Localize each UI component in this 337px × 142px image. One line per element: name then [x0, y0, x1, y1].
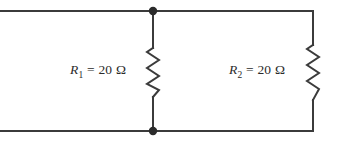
resistor-2-value: 20	[257, 62, 271, 77]
resistor-1-symbol	[147, 48, 159, 97]
junction-dot-bottom	[149, 127, 157, 135]
resistor-1-label: R1 = 20 Ω	[70, 63, 126, 80]
resistor-1-unit: Ω	[116, 62, 126, 77]
resistor-2-subscript: 2	[237, 70, 242, 80]
resistor-2-equals: =	[246, 62, 254, 77]
circuit-schematic-svg	[0, 0, 337, 142]
resistor-2-unit: Ω	[275, 62, 285, 77]
resistor-1-value: 20	[98, 62, 112, 77]
circuit-diagram: R1 = 20 Ω R2 = 20 Ω	[0, 0, 337, 142]
junction-dot-top	[149, 7, 157, 15]
resistor-2-symbol	[307, 45, 319, 100]
resistor-1-subscript: 1	[78, 70, 83, 80]
resistor-1-equals: =	[87, 62, 95, 77]
resistor-2-label: R2 = 20 Ω	[229, 63, 285, 80]
